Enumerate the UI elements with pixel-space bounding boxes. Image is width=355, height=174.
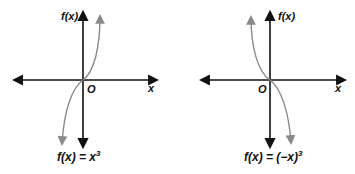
function-caption: f(x) = x3: [57, 149, 101, 164]
cubic-functions-figure: f(x) x O f(x) = x3 f(x) x O f(x) = (−x)3: [0, 0, 355, 174]
x-axis-label: x: [147, 82, 155, 94]
function-caption: f(x) = (−x)3: [244, 149, 303, 164]
graph-neg-x-cubed: f(x) x O f(x) = (−x)3: [201, 10, 345, 164]
graph-x-cubed: f(x) x O f(x) = x3: [14, 10, 157, 164]
y-axis-label: f(x): [278, 10, 295, 22]
x-axis-label: x: [334, 82, 342, 94]
origin-label: O: [87, 83, 96, 95]
y-axis-label: f(x): [61, 10, 78, 22]
origin-label: O: [258, 83, 267, 95]
